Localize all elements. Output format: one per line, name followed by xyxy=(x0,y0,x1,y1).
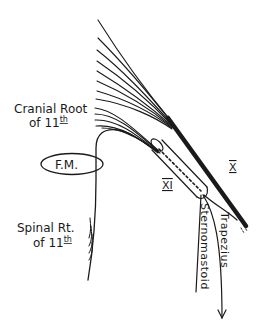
sternomastoid-label: Sternomastoid xyxy=(198,203,211,290)
cranial-root-label: Cranial Root xyxy=(14,102,88,116)
cranial-root-label-2: of 11th xyxy=(29,115,68,130)
spinal-root-label: Spinal Rt. xyxy=(17,221,75,235)
accessory-nerve-diagram: Cranial Root of 11th F.M. Spinal Rt. of … xyxy=(0,0,265,327)
spinal-root xyxy=(88,130,160,280)
trapezius-label: Trapezius xyxy=(218,211,231,268)
nerve-sheath xyxy=(149,137,207,199)
accessory-numeral-label: XI xyxy=(162,179,173,192)
vagus-rootlets xyxy=(96,20,172,129)
spinal-rootlets xyxy=(89,218,92,260)
cranial-root-rootlets xyxy=(95,108,158,153)
vagus-numeral-label: X xyxy=(229,161,237,174)
spinal-root-label-2: of 11th xyxy=(33,235,72,250)
foramen-magnum-label: F.M. xyxy=(55,158,78,172)
